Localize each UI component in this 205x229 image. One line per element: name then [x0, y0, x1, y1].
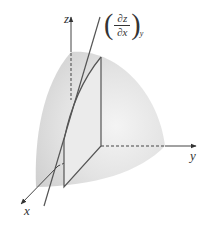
left-paren: ( [104, 10, 113, 39]
diagram: z y x ( ∂z ∂x ) y [0, 0, 205, 229]
partial-derivative-label: ( ∂z ∂x ) y [104, 10, 143, 40]
x-axis-label: x [24, 203, 30, 219]
fraction: ∂z ∂x [114, 13, 130, 38]
y-axis-label: y [190, 148, 196, 164]
denominator: ∂x [117, 27, 127, 38]
z-axis-label: z [64, 11, 69, 27]
right-paren: ) [131, 10, 140, 39]
numerator: ∂z [117, 13, 127, 24]
diagram-canvas [0, 0, 205, 229]
